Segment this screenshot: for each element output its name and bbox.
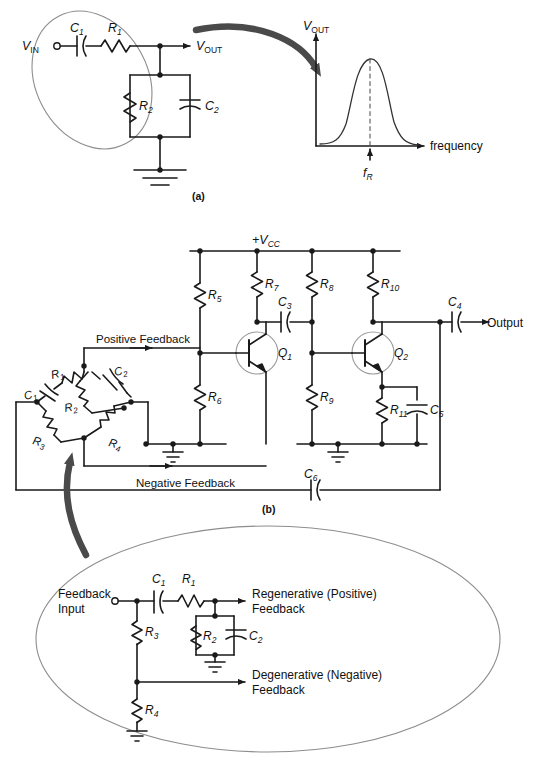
resistor-r8-symbol — [307, 272, 318, 297]
wire-r3b-a — [37, 402, 46, 411]
label-c6: C6 — [304, 467, 318, 483]
label-r7: R7 — [265, 277, 279, 293]
label-c4: C4 — [448, 295, 462, 311]
node-dot — [335, 441, 340, 446]
label-r1-c: R1 — [182, 572, 196, 588]
circuit-diagram-svg: VIN C1 R1 VOUT R2 C2 VOUT frequency fR (… — [0, 0, 533, 762]
wire-r4b-a — [84, 427, 101, 438]
node-dot — [379, 441, 384, 446]
resonance-curve — [320, 59, 418, 145]
resistor-r6-symbol — [195, 385, 206, 410]
resistor-r5-symbol — [195, 283, 206, 308]
ground-icon — [328, 444, 348, 462]
label-r2-c: R2 — [203, 629, 217, 645]
figure-canvas: VIN C1 R1 VOUT R2 C2 VOUT frequency fR (… — [0, 0, 533, 762]
label-q1: Q1 — [278, 346, 292, 362]
capacitor-c1c-symbol — [154, 591, 163, 613]
capacitor-c6-symbol — [311, 480, 320, 500]
panel-a-network — [9, 0, 200, 185]
ground-icon — [205, 655, 225, 672]
label-r3-b: R3 — [31, 434, 48, 452]
wire-r2b-b — [84, 406, 92, 413]
capacitor-c1-symbol — [77, 36, 86, 56]
resistor-r7-symbol — [252, 272, 263, 297]
panel-c-detail — [36, 526, 500, 752]
plot-y-label: VOUT — [303, 19, 329, 35]
node-dot — [197, 441, 202, 446]
label-q2: Q2 — [394, 346, 408, 362]
degenerative-label-line2: Feedback — [252, 683, 306, 697]
plot-x-label: frequency — [430, 139, 483, 153]
wire-c2b-a — [92, 372, 100, 379]
capacitor-c4-symbol — [452, 312, 461, 332]
vin-terminal-icon — [54, 43, 60, 49]
node-dot — [309, 441, 314, 446]
ground-icon — [163, 444, 183, 462]
panel-b-circuit — [16, 248, 489, 500]
label-c1-c: C1 — [152, 572, 166, 588]
resistor-r9-symbol — [307, 385, 318, 410]
wire-r3b-b — [54, 435, 61, 442]
resistor-r1-symbol — [101, 40, 130, 52]
wire-c2b-c — [127, 393, 131, 397]
capacitor-c3-symbol — [281, 312, 290, 332]
label-r3-c: R3 — [145, 625, 159, 641]
label-r2-a: R2 — [139, 99, 153, 115]
regenerative-label-line1: Regenerative (Positive) — [252, 587, 377, 601]
feedback-input-terminal-icon — [112, 598, 118, 604]
label-c1-a: C1 — [70, 21, 84, 37]
resistor-r10-symbol — [368, 272, 379, 297]
panel-a-caption: (a) — [192, 190, 205, 202]
vout-label: VOUT — [196, 39, 222, 55]
feedback-input-label-line2: Input — [58, 602, 85, 616]
regenerative-label-line2: Feedback — [252, 602, 306, 616]
capacitor-c2c-symbol — [226, 630, 246, 639]
resistor-r11-symbol — [377, 398, 388, 423]
resistor-r1c-symbol — [178, 595, 204, 607]
label-r11: R11 — [390, 403, 408, 419]
callout-arrow-b — [67, 462, 86, 555]
label-r4-b: R4 — [107, 436, 124, 454]
label-r4-c: R4 — [145, 703, 159, 719]
label-r2-b: R2 — [63, 400, 79, 417]
feedback-input-label-line1: Feedback — [58, 587, 112, 601]
node-dot — [157, 167, 162, 172]
label-r1-b: R1 — [50, 366, 66, 384]
negative-feedback-label: Negative Feedback — [136, 477, 235, 489]
label-r6: R6 — [208, 390, 222, 406]
resistor-r2b-symbol — [76, 381, 88, 406]
label-c2-c: C2 — [249, 629, 263, 645]
label-r9: R9 — [320, 390, 334, 406]
node-dot — [121, 405, 126, 410]
wire-r3b-c — [61, 438, 84, 442]
frequency-response-plot — [316, 34, 424, 160]
wire-c1b-b — [54, 383, 62, 389]
label-r8: R8 — [320, 277, 334, 293]
capacitor-c5-symbol — [407, 405, 427, 414]
panel-a-highlight-ellipse — [9, 0, 175, 170]
resistor-r3b-symbol — [43, 411, 57, 435]
label-r10: R10 — [381, 277, 399, 293]
fr-label: fR — [363, 166, 373, 182]
panel-b-caption: (b) — [262, 503, 275, 515]
panel-c-highlight-ellipse — [36, 526, 500, 752]
transistor-q1-symbol — [236, 322, 278, 444]
label-c2-a: C2 — [205, 99, 219, 115]
vcc-label: +VCC — [252, 233, 281, 249]
positive-feedback-label: Positive Feedback — [96, 333, 190, 345]
transistor-q2-symbol — [352, 322, 394, 387]
label-r1-a: R1 — [108, 21, 122, 37]
degenerative-label-line1: Degenerative (Negative) — [252, 668, 382, 682]
label-c3: C3 — [278, 295, 292, 311]
node-dot — [414, 441, 419, 446]
node-dot — [170, 441, 175, 446]
label-r5: R5 — [208, 288, 222, 304]
label-c5: C5 — [430, 403, 444, 419]
resistor-r4c-symbol — [132, 699, 142, 723]
output-label: Output — [487, 316, 524, 330]
resistor-r3c-symbol — [132, 621, 142, 645]
